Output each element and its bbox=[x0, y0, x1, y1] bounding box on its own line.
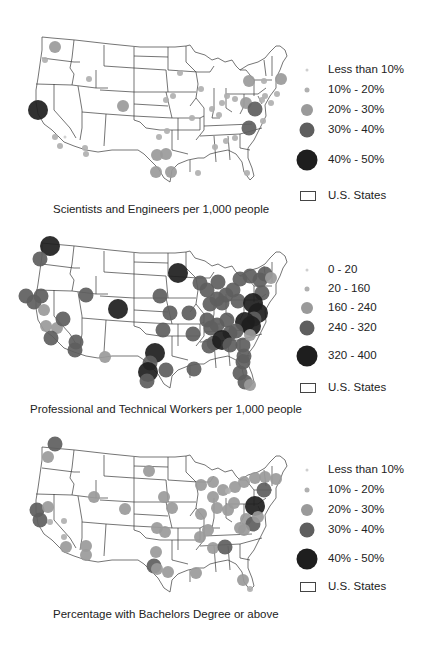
city-symbol bbox=[238, 524, 250, 536]
data-points bbox=[30, 437, 283, 593]
city-symbol bbox=[60, 541, 72, 553]
city-symbol bbox=[257, 483, 272, 498]
city-symbol bbox=[195, 508, 207, 520]
circle-symbol-icon bbox=[296, 460, 318, 480]
legend-label: 40% - 50% bbox=[328, 552, 384, 564]
city-symbol bbox=[61, 534, 67, 540]
city-symbol bbox=[61, 518, 67, 524]
legend-item: 30% - 40% bbox=[296, 520, 426, 540]
legend-item: Less than 10% bbox=[296, 460, 426, 480]
city-symbol bbox=[195, 479, 207, 491]
city-symbol bbox=[42, 501, 54, 513]
city-symbol bbox=[162, 566, 174, 578]
city-symbol bbox=[207, 476, 219, 488]
city-symbol bbox=[150, 546, 162, 558]
legend-label: 20% - 30% bbox=[328, 503, 384, 515]
city-symbol bbox=[166, 502, 178, 514]
circle-symbol-icon bbox=[296, 500, 318, 520]
circle-symbol-icon bbox=[296, 520, 318, 540]
city-symbol bbox=[88, 491, 100, 503]
city-symbol bbox=[48, 437, 63, 452]
city-symbol bbox=[237, 574, 249, 586]
city-symbol bbox=[119, 503, 131, 515]
city-symbol bbox=[222, 504, 234, 516]
city-symbol bbox=[80, 549, 92, 561]
city-symbol bbox=[190, 567, 202, 579]
city-symbol bbox=[158, 491, 170, 503]
city-symbol bbox=[159, 526, 171, 538]
city-symbol bbox=[211, 502, 223, 514]
city-symbol bbox=[225, 488, 231, 494]
city-symbol bbox=[42, 451, 54, 463]
legend-label: 10% - 20% bbox=[328, 483, 384, 495]
city-symbol bbox=[247, 586, 253, 592]
city-symbol bbox=[151, 563, 163, 575]
city-symbol bbox=[270, 473, 282, 485]
state-outline-icon bbox=[300, 582, 316, 592]
city-symbol bbox=[202, 524, 214, 536]
city-symbol bbox=[33, 513, 48, 528]
legend-item: 20% - 30% bbox=[296, 500, 426, 520]
legend-label: Less than 10% bbox=[328, 463, 404, 475]
city-symbol bbox=[218, 540, 233, 555]
legend-item: 10% - 20% bbox=[296, 480, 426, 500]
city-symbol bbox=[47, 519, 53, 525]
map-panel-bachelors: Less than 10% 10% - 20% 20% - 30% 30% - … bbox=[0, 0, 429, 648]
city-symbol bbox=[252, 511, 264, 523]
city-symbol bbox=[143, 465, 155, 477]
city-symbol bbox=[207, 491, 219, 503]
map-caption: Percentage with Bachelors Degree or abov… bbox=[53, 608, 279, 620]
legend-item: 40% - 50% bbox=[296, 547, 426, 571]
legend-item-states: U.S. States bbox=[296, 577, 426, 597]
legend-label: 30% - 40% bbox=[328, 523, 384, 535]
circle-symbol-icon bbox=[295, 547, 319, 571]
legend-label: U.S. States bbox=[328, 580, 386, 592]
city-symbol bbox=[238, 476, 250, 488]
city-symbol bbox=[259, 471, 271, 483]
city-symbol bbox=[207, 542, 219, 554]
circle-symbol-icon bbox=[296, 480, 318, 500]
